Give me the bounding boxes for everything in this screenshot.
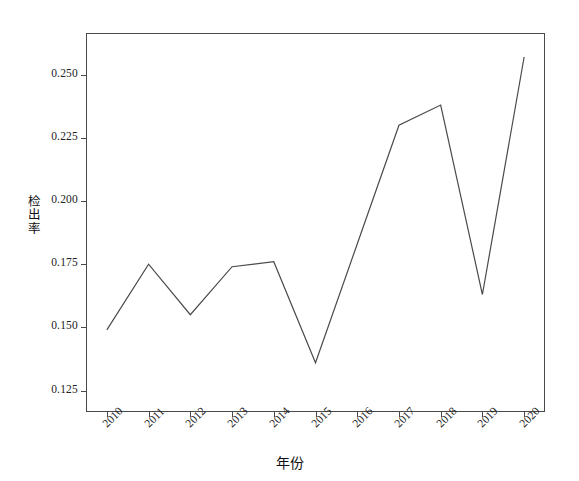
- x-axis-tick-mark: [399, 412, 400, 417]
- y-axis-tick-mark: [81, 264, 86, 265]
- x-axis-tick-mark: [107, 412, 108, 417]
- x-axis-tick-mark: [274, 412, 275, 417]
- x-axis-tick-mark: [524, 412, 525, 417]
- plot-area-frame: [86, 33, 545, 412]
- x-axis-title: 年份: [0, 452, 579, 472]
- x-axis-tick-mark: [441, 412, 442, 417]
- y-axis-tick-mark: [81, 327, 86, 328]
- y-axis-title-char-3: 率: [26, 223, 42, 236]
- x-axis-tick-mark: [190, 412, 191, 417]
- y-axis-tick-mark: [81, 75, 86, 76]
- y-axis-tick-label: 0.200: [30, 193, 78, 205]
- y-axis-tick-mark: [81, 138, 86, 139]
- y-axis-tick-label: 0.175: [30, 256, 78, 268]
- x-axis-tick-mark: [232, 412, 233, 417]
- y-axis-tick-label: 0.225: [30, 130, 78, 142]
- y-axis-tick-label: 0.250: [30, 67, 78, 79]
- y-axis-tick-label: 0.150: [30, 319, 78, 331]
- x-axis-tick-mark: [316, 412, 317, 417]
- chart-container: 检 出 率 年份 0.1250.1500.1750.2000.2250.250 …: [0, 0, 579, 481]
- y-axis-tick-mark: [81, 391, 86, 392]
- x-axis-tick-mark: [357, 412, 358, 417]
- x-axis-tick-mark: [149, 412, 150, 417]
- x-axis-tick-mark: [482, 412, 483, 417]
- y-axis-title-char-2: 出: [26, 209, 42, 222]
- y-axis-tick-mark: [81, 201, 86, 202]
- y-axis-tick-label: 0.125: [30, 383, 78, 395]
